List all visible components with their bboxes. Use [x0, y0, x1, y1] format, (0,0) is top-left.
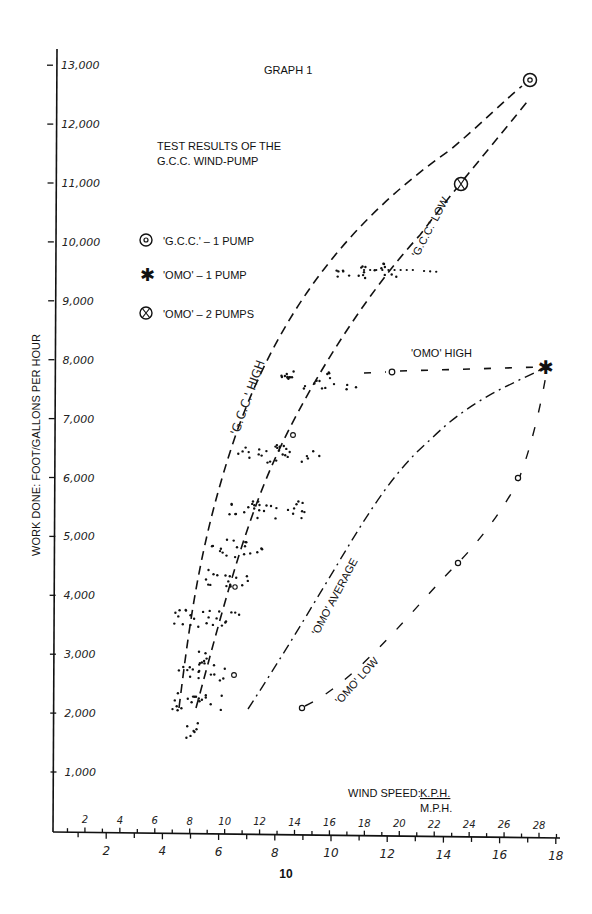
data-point: [205, 622, 207, 624]
data-point: [266, 461, 268, 463]
data-point: [216, 574, 218, 576]
y-tick-label: 10,000: [62, 236, 101, 249]
chart-title-line1: TEST RESULTS OF THE: [157, 140, 281, 152]
data-point: [306, 455, 308, 457]
data-point: [193, 696, 195, 698]
data-point: [248, 457, 250, 459]
x-tick-label-mph: 10: [323, 846, 339, 860]
data-point: [197, 626, 199, 628]
data-point: [238, 614, 240, 616]
page-number: 10: [279, 867, 293, 881]
data-point: [211, 545, 213, 547]
data-point: [391, 273, 393, 275]
data-point: [198, 651, 200, 653]
data-point: [384, 266, 386, 268]
data-point: [292, 513, 294, 515]
x-tick-label-kph: 20: [393, 818, 406, 829]
data-point: [337, 270, 339, 272]
data-point: [287, 378, 289, 380]
data-point: [303, 387, 305, 389]
data-point: [192, 730, 194, 732]
data-point: [293, 507, 295, 509]
x-tick-label-kph: 26: [498, 819, 511, 830]
data-point: [199, 662, 201, 664]
curve-gcc-high: [179, 86, 522, 708]
data-point: [284, 375, 286, 377]
data-point: [186, 725, 188, 727]
data-point: [180, 707, 182, 709]
data-point: [192, 668, 194, 670]
data-point: [244, 545, 246, 547]
legend-omo-2-pumps: 'OMO' – 2 PUMPS: [163, 308, 254, 320]
data-point: [221, 551, 223, 553]
data-point: [209, 610, 211, 612]
data-point: [363, 271, 365, 273]
x-tick-label-kph: 2: [82, 814, 88, 825]
data-point: [178, 609, 180, 611]
data-point: [321, 387, 323, 389]
data-point: [221, 624, 223, 626]
data-point: [224, 574, 226, 576]
data-point: [178, 669, 180, 671]
data-point: [213, 664, 215, 666]
data-point: [355, 386, 357, 388]
data-point: [364, 277, 366, 279]
data-point: [249, 552, 251, 554]
data-point: [362, 274, 364, 276]
data-point: [275, 507, 277, 509]
data-point: [189, 624, 191, 626]
legend: 'G.C.C.' – 1 PUMP ✱ 'OMO' – 1 PUMP 'OMO'…: [140, 234, 254, 320]
data-point: [384, 274, 386, 276]
legend-omo-1-pump: 'OMO' – 1 PUMP: [163, 269, 247, 281]
data-point: [269, 460, 271, 462]
data-point: [304, 385, 306, 387]
data-point: [374, 269, 376, 271]
data-point: [241, 584, 243, 586]
label-omo-low: 'OMO' LOW: [333, 654, 382, 706]
data-point: [221, 695, 223, 697]
data-point: [243, 511, 245, 513]
data-point: [189, 614, 191, 616]
data-point: [246, 575, 248, 577]
data-point: [383, 263, 385, 265]
data-point: [225, 585, 227, 587]
data-point: [209, 584, 211, 586]
data-point: [212, 573, 214, 575]
data-point: [198, 670, 200, 672]
data-point: [224, 668, 226, 670]
data-point: [301, 502, 303, 504]
x-tick-label-mph: 12: [380, 847, 395, 861]
y-tick-label: 7,000: [63, 413, 95, 426]
asterisk-icon: ✱: [140, 264, 155, 285]
x-axis: [53, 832, 560, 838]
data-point: [202, 611, 204, 613]
data-point: [337, 275, 339, 277]
curve-omo-low: [305, 375, 546, 706]
data-point: [219, 679, 221, 681]
x-tick-label-kph: 4: [117, 815, 123, 826]
data-point: [210, 673, 212, 675]
circled-x-icon: [140, 307, 152, 319]
data-point: [207, 616, 209, 618]
data-point: [297, 500, 299, 502]
data-point: [218, 610, 220, 612]
data-point: [247, 506, 249, 508]
data-point: [324, 387, 326, 389]
x-tick-label-kph: 28: [533, 820, 546, 831]
data-point: [318, 455, 320, 457]
data-point: [229, 575, 231, 577]
data-point: [276, 447, 278, 449]
marker-omo-2-pumps: [455, 178, 468, 191]
data-point: [270, 505, 272, 507]
data-point: [301, 510, 303, 512]
data-point: [219, 550, 221, 552]
x-tick-label-mph: 8: [271, 846, 279, 860]
data-point: [256, 517, 258, 519]
data-point: [222, 677, 224, 679]
data-point: [263, 510, 265, 512]
data-point: [235, 577, 237, 579]
data-point: [213, 673, 215, 675]
chart: 1,0002,0003,0004,0005,0006,0007,0008,000…: [0, 0, 592, 914]
data-point: [227, 580, 229, 582]
data-point: [205, 657, 207, 659]
